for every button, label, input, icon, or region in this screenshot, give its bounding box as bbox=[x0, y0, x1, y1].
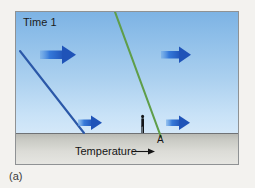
wind-arrow-upper-left bbox=[40, 46, 76, 65]
diagram-overlay bbox=[16, 12, 239, 165]
wind-arrow-lower-left bbox=[78, 116, 102, 131]
time-label: Time 1 bbox=[23, 16, 57, 28]
wind-arrow-lower-right bbox=[166, 116, 190, 131]
diagram-panel: Time 1 A Temperature bbox=[15, 11, 239, 165]
observer-person-icon bbox=[141, 115, 144, 133]
wind-arrow-upper-right bbox=[161, 47, 191, 64]
warm-air-temperature-profile bbox=[115, 12, 161, 137]
figure-root: Time 1 A Temperature (a) bbox=[0, 0, 255, 188]
figure-caption: (a) bbox=[9, 170, 22, 182]
temperature-axis-label: Temperature bbox=[75, 145, 137, 157]
cold-air-temperature-profile bbox=[20, 51, 84, 133]
point-a-label: A bbox=[157, 134, 164, 145]
